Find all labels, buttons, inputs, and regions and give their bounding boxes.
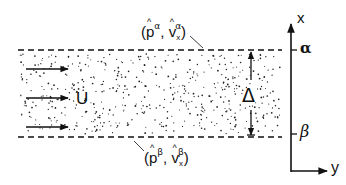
x-axis-label: x [297,10,305,25]
thickness-label: Δ [242,86,255,105]
bottom-boundary-label: (pβ, vxβ) [144,150,189,165]
bottom-label-pressure-superscript: β [157,147,163,157]
bottom-label-leader [134,141,144,151]
top-boundary-label: (pα, vxα) [141,24,186,39]
top-label-leader [190,36,203,48]
top-label-velocity-subscript: x [176,33,180,42]
bottom-label-close-paren: ) [184,149,189,166]
flow-speed-label: U [76,90,88,107]
top-label-close-paren: ) [181,23,186,40]
y-axis-label: y [331,160,339,176]
bottom-label-velocity-superscript: β [178,147,184,157]
bottom-label-comma: , [163,149,171,166]
beta-tick-label: β [300,124,309,140]
bottom-label-velocity-subscript: x [179,159,183,168]
top-label-comma: , [160,23,168,40]
top-label-velocity-superscript: α [175,21,181,31]
top-label-pressure-superscript: α [154,21,160,31]
alpha-tick-label: α [300,41,312,56]
